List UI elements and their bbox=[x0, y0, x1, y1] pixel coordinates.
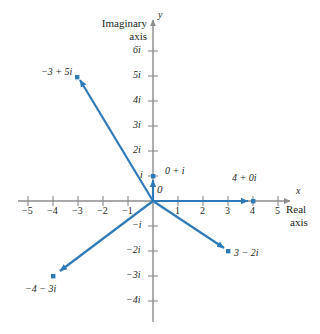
y-tick-label-neg-i: −i bbox=[132, 220, 142, 231]
x-tick-label-3: 3 bbox=[225, 206, 230, 217]
y-tick-label-i: i bbox=[140, 170, 143, 181]
point-marker-minus3-plus-5i bbox=[75, 75, 79, 79]
x-tick-label-neg2: −2 bbox=[97, 206, 108, 217]
x-tick-label-neg4: −4 bbox=[47, 206, 58, 217]
point-label-0-plus-i: 0 + i bbox=[165, 166, 185, 177]
y-tick-label-neg-3i: −3i bbox=[126, 270, 141, 281]
imaginary-axis-title-line1: Imaginary bbox=[95, 18, 147, 30]
vector-3-minus-2i bbox=[153, 201, 224, 248]
x-tick-label-neg1: −1 bbox=[122, 206, 133, 217]
x-axis-variable-label: x bbox=[296, 186, 300, 197]
y-tick-label-neg-2i: −2i bbox=[126, 245, 141, 256]
y-tick-label-6i: 6i bbox=[133, 45, 141, 56]
x-tick-label-2: 2 bbox=[200, 206, 205, 217]
vector-minus3-plus-5i bbox=[80, 80, 153, 201]
y-tick-label-4i: 4i bbox=[133, 95, 141, 106]
point-marker-0-plus-i bbox=[151, 174, 155, 178]
point-label-minus4-minus-3i: −4 − 3i bbox=[25, 284, 56, 295]
point-marker-3-minus-2i bbox=[226, 249, 230, 253]
point-marker-minus4-minus-3i bbox=[51, 274, 55, 278]
x-tick-label-1: 1 bbox=[175, 206, 180, 217]
real-axis-title-line1: Real bbox=[286, 204, 306, 216]
origin-label: 0 bbox=[157, 184, 163, 196]
y-tick-label-neg-4i: −4i bbox=[126, 295, 141, 306]
y-axis-variable-label: y bbox=[158, 10, 162, 21]
point-label-minus3-plus-5i: −3 + 5i bbox=[41, 67, 72, 78]
x-tick-label-4: 4 bbox=[250, 206, 255, 217]
y-tick-label-5i: 5i bbox=[133, 70, 141, 81]
y-axis bbox=[148, 20, 158, 322]
imaginary-axis-title-line2: axis bbox=[95, 31, 147, 43]
y-tick-label-2i: 2i bbox=[133, 145, 141, 156]
y-tick-label-3i: 3i bbox=[133, 120, 141, 131]
point-marker-4-plus-0i bbox=[251, 199, 255, 203]
point-label-3-minus-2i: 3 − 2i bbox=[234, 248, 259, 259]
x-tick-label-neg5: −5 bbox=[22, 206, 33, 217]
complex-plane-figure: −5 −4 −3 −2 −1 1 2 3 4 5 6i 5i 4i 3i 2i … bbox=[0, 0, 320, 334]
real-axis-title-line2: axis bbox=[290, 217, 308, 229]
x-tick-label-neg3: −3 bbox=[72, 206, 83, 217]
point-label-4-plus-0i: 4 + 0i bbox=[232, 173, 257, 184]
x-tick-label-5: 5 bbox=[275, 206, 280, 217]
